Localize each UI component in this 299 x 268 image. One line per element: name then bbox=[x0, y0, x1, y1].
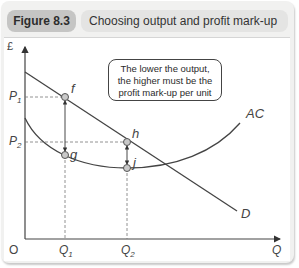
y-axis-label: £ bbox=[7, 40, 13, 52]
callout-line-2: the higher must be the bbox=[109, 75, 221, 87]
annotation-callout: The lower the output, the higher must be… bbox=[108, 59, 222, 101]
x-axis-label: Q bbox=[272, 243, 281, 257]
callout-line-3: profit mark-up per unit bbox=[109, 87, 221, 99]
curve-label-d: D bbox=[241, 206, 250, 221]
origin-label: O bbox=[9, 243, 18, 257]
diagram-svg bbox=[0, 0, 299, 268]
point-label-g: g bbox=[70, 147, 77, 162]
tick-p2: P2 bbox=[9, 134, 21, 150]
point-label-f: f bbox=[71, 81, 75, 96]
callout-line-1: The lower the output, bbox=[109, 63, 221, 75]
tick-p1: P1 bbox=[9, 89, 21, 105]
tick-q1: Q1 bbox=[59, 243, 73, 259]
point-label-j: j bbox=[133, 155, 136, 170]
curve-label-ac: AC bbox=[246, 106, 264, 121]
tick-q2: Q2 bbox=[121, 243, 135, 259]
point-label-h: h bbox=[132, 126, 139, 141]
